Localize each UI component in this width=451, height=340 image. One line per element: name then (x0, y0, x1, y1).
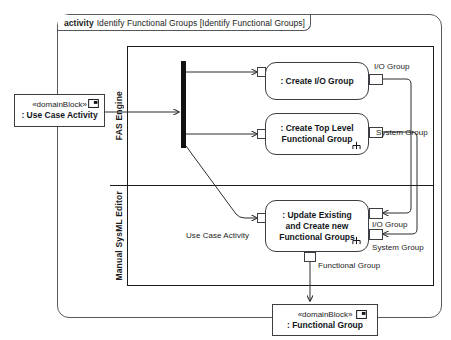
domain-block-use-case-activity[interactable]: «domainBlock» : Use Case Activity (14, 94, 105, 127)
domain-block-functional-group[interactable]: «domainBlock» : Functional Group (272, 304, 378, 336)
edge-label-use-case-activity: Use Case Activity (186, 231, 249, 240)
block-icon (88, 99, 99, 108)
pin-label-io-group-out: I/O Group (374, 62, 410, 71)
fork-node (181, 61, 186, 148)
domain-block-stereotype: «domainBlock» (32, 100, 87, 110)
action-label-create-io-group: : Create I/O Group (280, 76, 353, 87)
action-label-update-existing: : Update Existing and Create new Functio… (274, 210, 360, 243)
pin-label-functional-group-out: Functional Group (318, 261, 380, 270)
edge-io-group-flow (383, 79, 411, 213)
action-create-io-group[interactable]: : Create I/O Group (265, 62, 369, 100)
edge-system-group-flow (383, 132, 417, 234)
domain-block-name: : Functional Group (287, 320, 363, 331)
rake-icon (352, 141, 361, 150)
connector-layer (0, 0, 451, 340)
action-label-create-top-level: : Create Top Level Functional Group (274, 123, 360, 145)
edge-fork-to-update (186, 146, 257, 218)
action-create-top-level-functional-group[interactable]: : Create Top Level Functional Group (265, 113, 369, 155)
output-pin-io-group (369, 74, 383, 85)
rake-icon (352, 236, 361, 245)
pin-label-system-group-in: System Group (372, 243, 424, 252)
input-pin-io-group (369, 208, 383, 219)
pin-label-system-group-out: System Group (376, 128, 428, 137)
block-icon (356, 310, 367, 319)
output-pin-functional-group (304, 252, 316, 262)
domain-block-stereotype: «domainBlock» (298, 310, 353, 320)
pin-label-io-group-in: I/O Group (372, 220, 408, 229)
action-update-existing-create-new-functional-groups[interactable]: : Update Existing and Create new Functio… (265, 200, 369, 252)
activity-diagram-canvas: activity Identify Functional Groups [Ide… (0, 0, 451, 340)
input-pin-system-group (369, 229, 383, 240)
domain-block-name: : Use Case Activity (21, 110, 97, 121)
